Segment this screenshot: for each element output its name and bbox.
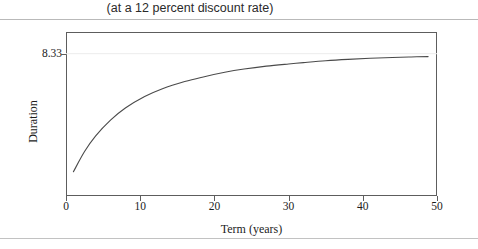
x-tick-label-1: 10 [120,200,160,212]
y-tick-label-0: 8.33 [10,47,62,59]
x-axis-label: Term (years) [66,222,437,237]
top-divider [0,19,478,20]
x-tick-label-3: 30 [269,200,309,212]
bottom-divider [0,238,478,239]
x-tick-label-2: 20 [194,200,234,212]
chart-title: (at a 12 percent discount rate) [0,1,380,16]
plot-canvas [66,32,437,196]
y-axis-label: Duration [26,82,41,162]
x-tick-label-5: 50 [417,200,457,212]
duration-curve-group [73,57,428,172]
x-tick-label-4: 40 [343,200,383,212]
series-line-duration [73,57,428,172]
y-tick-mark-0 [61,54,66,55]
chart-figure: (at a 12 percent discount rate) Duration… [0,0,478,249]
x-tick-label-0: 0 [46,200,86,212]
